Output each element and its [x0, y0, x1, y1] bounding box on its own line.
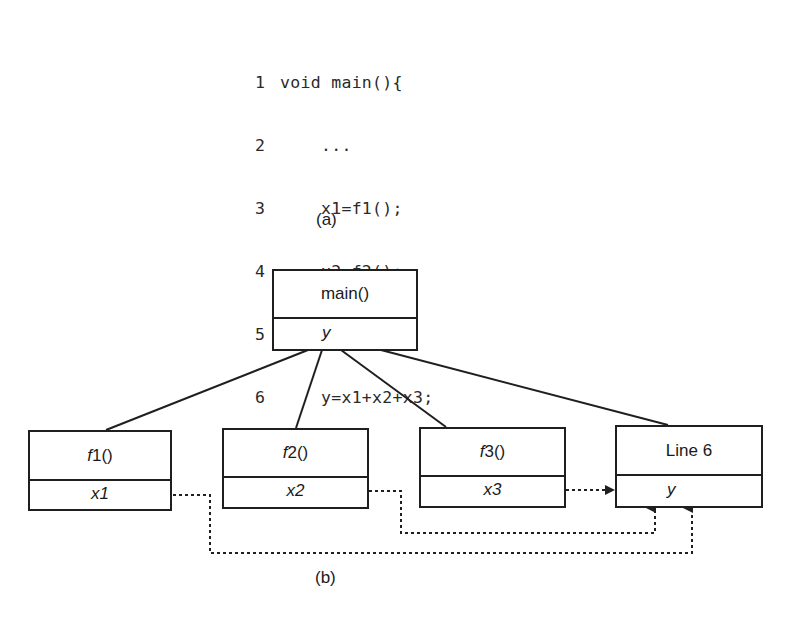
node-f2: f2() x2: [222, 428, 369, 509]
node-f3: f3() x3: [419, 427, 566, 508]
node-label: 1(): [92, 446, 113, 466]
node-label: main(): [321, 284, 369, 304]
node-f3-var: x3: [421, 474, 564, 506]
node-label: Line 6: [666, 441, 712, 461]
node-f1-title: f1(): [30, 432, 170, 481]
node-line6-title: Line 6: [617, 427, 761, 476]
node-f1: f1() x1: [28, 430, 172, 511]
edge-main-line6: [381, 350, 668, 425]
node-line6-var: y: [617, 473, 761, 506]
node-f2-var: x2: [224, 475, 367, 507]
edge-main-f2: [296, 350, 322, 428]
edge-main-f3: [341, 350, 446, 427]
node-f3-title: f3(): [421, 429, 564, 477]
node-line6: Line 6 y: [615, 425, 763, 508]
node-label: 2(): [287, 443, 308, 463]
node-f1-var: x1: [30, 478, 170, 509]
node-main: main() y: [272, 269, 418, 351]
caption-b: (b): [315, 568, 336, 588]
node-label: 3(): [484, 442, 505, 462]
node-main-var: y: [274, 317, 416, 349]
edge-main-f1: [106, 350, 308, 430]
node-main-title: main(): [274, 271, 416, 319]
node-f2-title: f2(): [224, 430, 367, 478]
